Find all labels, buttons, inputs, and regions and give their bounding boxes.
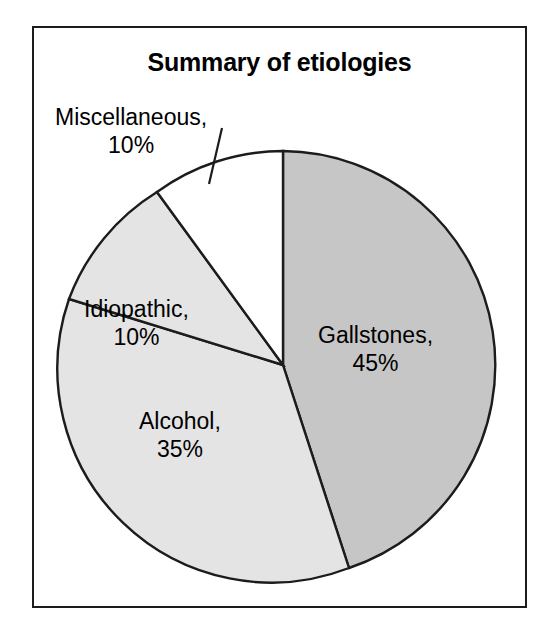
pie-label-miscellaneous-name: Miscellaneous, <box>55 104 207 132</box>
pie-label-idiopathic: Idiopathic, 10% <box>84 296 189 351</box>
pie-label-gallstones-value: 45% <box>318 350 433 378</box>
pie-label-idiopathic-name: Idiopathic, <box>84 296 189 324</box>
pie-label-gallstones: Gallstones, 45% <box>318 322 433 377</box>
pie-label-gallstones-name: Gallstones, <box>318 322 433 350</box>
pie-label-miscellaneous-value: 10% <box>55 132 207 160</box>
pie-label-idiopathic-value: 10% <box>84 324 189 352</box>
pie-label-alcohol-name: Alcohol, <box>139 408 221 436</box>
pie-svg <box>0 0 545 632</box>
pie-label-alcohol-value: 35% <box>139 436 221 464</box>
pie-label-miscellaneous: Miscellaneous, 10% <box>55 104 207 159</box>
pie-chart-figure: Summary of etiologies Gallstones, 45% Al… <box>0 0 545 632</box>
pie-label-alcohol: Alcohol, 35% <box>139 408 221 463</box>
